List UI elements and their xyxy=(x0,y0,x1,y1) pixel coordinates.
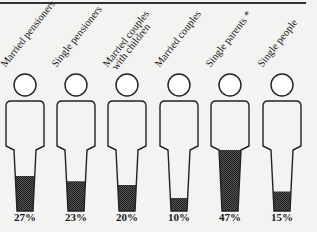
value-label: 27% xyxy=(5,211,45,223)
figure-4 xyxy=(211,74,249,211)
value-fill xyxy=(118,185,137,211)
value-fill xyxy=(67,181,86,211)
value-label: 10% xyxy=(159,211,199,223)
figure-3 xyxy=(160,74,198,211)
value-label: 20% xyxy=(107,211,147,223)
pictogram-chart: 27%Married pensioners23%Single pensioner… xyxy=(0,0,317,232)
head-icon xyxy=(168,74,190,96)
head-icon xyxy=(14,74,36,96)
figure-1 xyxy=(57,74,95,211)
value-fill xyxy=(15,176,34,211)
value-fill xyxy=(273,192,291,211)
figure-0 xyxy=(6,74,44,211)
figure-5 xyxy=(263,74,301,211)
head-icon xyxy=(116,74,138,96)
figure-2 xyxy=(108,74,146,211)
value-label: 47% xyxy=(210,211,250,223)
value-label: 15% xyxy=(262,211,302,223)
value-fill xyxy=(219,150,241,211)
head-icon xyxy=(271,74,293,96)
value-label: 23% xyxy=(56,211,96,223)
figures-layer xyxy=(0,0,317,232)
body-outline xyxy=(160,101,198,211)
head-icon xyxy=(65,74,87,96)
value-fill xyxy=(170,198,187,211)
head-icon xyxy=(219,74,241,96)
